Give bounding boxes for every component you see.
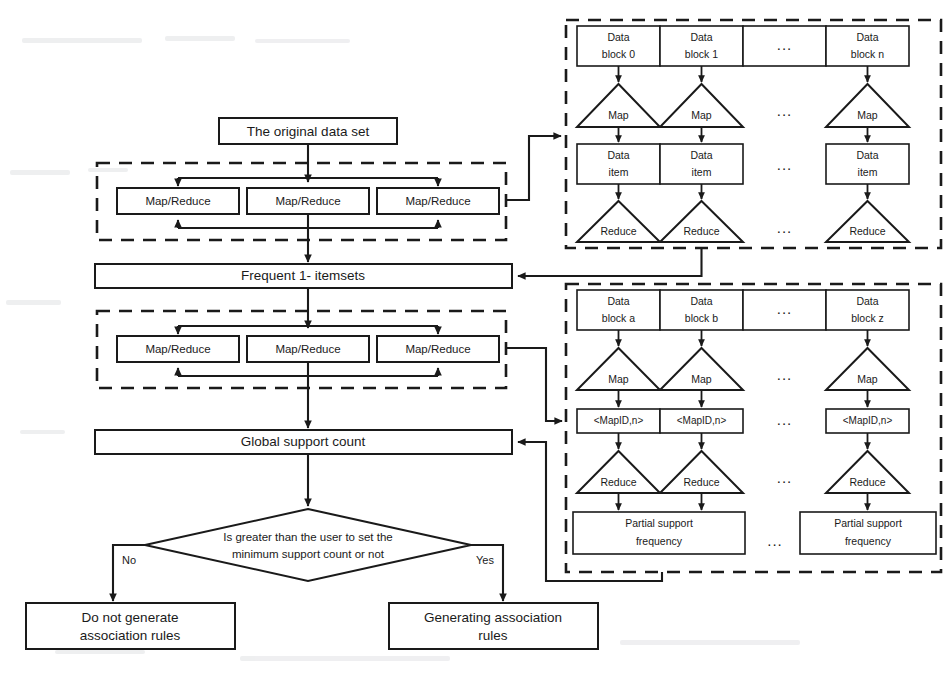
bottom-right-map-z-label: Map <box>857 373 878 385</box>
group1-node-3: Map/Reduce <box>377 188 499 214</box>
top-right-map-ellipsis: ... <box>777 102 793 119</box>
top-right-item-1-line-1: Data <box>690 149 712 161</box>
top-right-data-item-row: Data item Data item ... Data item <box>577 144 909 184</box>
partial-support-2-line-1: Partial support <box>834 517 902 529</box>
outcome-yes-box: Generating association rules <box>389 603 598 649</box>
outcome-no-line-2: association rules <box>80 628 181 643</box>
bottom-right-block-b-line-2: block b <box>685 312 718 324</box>
group2-node-3-label: Map/Reduce <box>405 343 470 355</box>
bottom-right-data-block-row: Data block a Data block b ... Data block… <box>577 290 909 330</box>
top-right-map-0-label: Map <box>608 109 629 121</box>
outcome-no-line-1: Do not generate <box>82 610 179 625</box>
group2-node-1: Map/Reduce <box>117 336 239 362</box>
partial-support-ellipsis: ... <box>767 532 783 549</box>
outcome-yes-line-1: Generating association <box>424 610 562 625</box>
partial-support-1-line-2: frequency <box>636 535 683 547</box>
bottom-right-reduce-a-label: Reduce <box>600 476 636 488</box>
partial-support-1-line-1: Partial support <box>625 517 693 529</box>
bottom-right-mapid-row: <MapID,n> <MapID,n> ... <MapID,n> <box>577 409 909 433</box>
branch-yes-label: Yes <box>476 554 494 566</box>
frequent-itemsets-box: Frequent 1- itemsets <box>95 264 512 288</box>
bottom-right-reduce-ellipsis: ... <box>777 469 793 486</box>
top-right-data-block-row: Data block 0 Data block 1 ... Data block… <box>577 26 909 66</box>
group1-node-2: Map/Reduce <box>247 188 369 214</box>
bottom-right-reduce-z-label: Reduce <box>849 476 885 488</box>
top-right-block-n-line-2: block n <box>851 48 884 60</box>
frequent-itemsets-label: Frequent 1- itemsets <box>241 268 365 283</box>
decision-text-line-1: Is greater than the user to set the <box>223 531 392 543</box>
bottom-right-block-ellipsis: ... <box>777 300 793 317</box>
flowchart-canvas: The original data set Map/Reduce Map/Red… <box>0 0 943 683</box>
top-right-item-ellipsis: ... <box>777 156 793 173</box>
bottom-right-map-b-label: Map <box>691 373 712 385</box>
top-right-item-0-line-2: item <box>609 166 629 178</box>
group2-node-3: Map/Reduce <box>377 336 499 362</box>
bottom-right-block-a-line-2: block a <box>602 312 635 324</box>
outcome-yes-line-2: rules <box>478 628 508 643</box>
group2-node-1-label: Map/Reduce <box>145 343 210 355</box>
top-right-map-n-label: Map <box>857 109 878 121</box>
partial-support-2-line-2: frequency <box>845 535 892 547</box>
bottom-right-block-z-line-1: Data <box>856 295 878 307</box>
bottom-right-block-b-line-1: Data <box>690 295 712 307</box>
group1-node-3-label: Map/Reduce <box>405 195 470 207</box>
bottom-right-block-z-line-2: block z <box>851 312 884 324</box>
original-data-set-label: The original data set <box>247 124 370 139</box>
global-support-count-label: Global support count <box>241 434 366 449</box>
top-right-reduce-ellipsis: ... <box>777 219 793 236</box>
bottom-right-reduce-b-label: Reduce <box>683 476 719 488</box>
bottom-right-mapid-z-label: <MapID,n> <box>843 415 893 426</box>
bottom-right-map-a-label: Map <box>608 373 629 385</box>
top-right-block-1-line-1: Data <box>690 31 712 43</box>
bottom-right-block-a-line-1: Data <box>607 295 629 307</box>
top-right-reduce-1-label: Reduce <box>683 225 719 237</box>
top-right-block-n-line-1: Data <box>856 31 878 43</box>
top-right-block-0-line-2: block 0 <box>602 48 635 60</box>
group2-node-2-label: Map/Reduce <box>275 343 340 355</box>
top-right-map-1-label: Map <box>691 109 712 121</box>
decision-text-line-2: minimum support count or not <box>232 548 385 560</box>
top-right-block-ellipsis: ... <box>777 36 793 53</box>
group2-node-2: Map/Reduce <box>247 336 369 362</box>
branch-no-label: No <box>122 554 136 566</box>
top-right-item-n-line-2: item <box>858 166 878 178</box>
group1-node-1: Map/Reduce <box>117 188 239 214</box>
top-right-reduce-n-label: Reduce <box>849 225 885 237</box>
top-right-block-1-line-2: block 1 <box>685 48 718 60</box>
bottom-right-mapid-ellipsis: ... <box>777 411 793 428</box>
bottom-right-mapid-b-label: <MapID,n> <box>677 415 727 426</box>
group1-node-1-label: Map/Reduce <box>145 195 210 207</box>
top-right-block-0-line-1: Data <box>607 31 629 43</box>
top-right-item-1-line-2: item <box>692 166 712 178</box>
group1-node-2-label: Map/Reduce <box>275 195 340 207</box>
global-support-count-box: Global support count <box>95 430 512 454</box>
bottom-right-mapid-a-label: <MapID,n> <box>594 415 644 426</box>
outcome-no-box: Do not generate association rules <box>26 603 235 649</box>
bottom-right-map-ellipsis: ... <box>777 366 793 383</box>
top-right-item-n-line-1: Data <box>856 149 878 161</box>
top-right-item-0-line-1: Data <box>607 149 629 161</box>
original-data-set-box: The original data set <box>219 118 397 144</box>
top-right-reduce-0-label: Reduce <box>600 225 636 237</box>
